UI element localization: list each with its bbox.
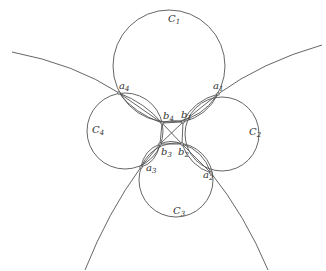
geometric-diagram: C1 C2 C3 C4 a1 a2 a3 a4 b1 b2 b3 b4 [0,0,326,271]
label-b1: b1 [181,110,192,122]
point-a1 [217,93,220,96]
label-b2: b2 [178,147,189,159]
label-a1: a1 [213,81,223,93]
curve-upper-left [12,52,119,93]
label-c2: C2 [249,127,261,139]
label-c3: C3 [173,206,185,218]
label-a2: a2 [203,170,213,182]
circle-c2 [185,97,259,171]
label-c1: C1 [168,14,180,26]
label-c4: C4 [92,125,104,137]
label-a4: a4 [119,81,129,93]
curve-lower-left [85,167,141,270]
curve-lower-right [211,173,268,270]
label-b3: b3 [161,147,172,159]
point-b3 [159,143,162,146]
point-a3 [140,166,143,169]
diagram-svg [0,0,326,271]
label-a3: a3 [146,163,156,175]
label-b4: b4 [163,111,174,123]
point-b2 [181,143,184,146]
curve-upper-right [218,45,322,94]
